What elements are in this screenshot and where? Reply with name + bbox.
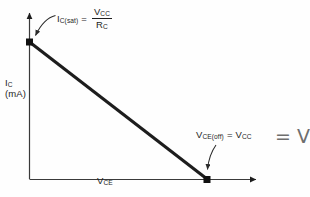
vce-off-symbol-subscript: CE(off) <box>202 133 223 140</box>
dc-load-line <box>30 42 208 179</box>
y-axis-unit: (mA) <box>5 89 26 99</box>
rc-symbol-subscript: C <box>103 24 108 31</box>
ic-sat-leader-arrow <box>36 16 56 36</box>
vce-off-equals-sign: = <box>224 130 236 140</box>
ic-sat-equals-sign: = <box>78 14 90 24</box>
fraction-numerator: VCC <box>92 7 112 18</box>
y-axis-label: IC (mA) <box>5 78 26 99</box>
ic-sat-symbol-subscript: C(sat) <box>60 17 79 24</box>
handwritten-vcc-main: = V <box>275 125 310 147</box>
vce-off-value-group: VCC <box>235 130 251 141</box>
handwritten-vcc-annotation: = Vc <box>275 127 310 149</box>
x-axis-symbol-subscript: CE <box>103 179 112 186</box>
ic-sat-annotation: IC(sat) = VCC RC <box>57 7 112 32</box>
vce-off-value-subscript: CC <box>242 133 252 140</box>
vce-off-annotation: VCE(off) = VCC <box>196 130 252 141</box>
vce-off-leader-arrow <box>208 145 217 170</box>
vce-off-symbol-group: VCE(off) <box>196 130 224 141</box>
fraction-denominator: RC <box>94 20 110 31</box>
figure-drawing-layer <box>0 0 310 197</box>
rc-symbol: R <box>96 19 103 30</box>
vce-off-point-marker <box>204 176 211 183</box>
vcc-symbol-subscript: CC <box>100 10 110 17</box>
x-axis-label: VCE <box>97 176 113 187</box>
vcc-over-rc-fraction: VCC RC <box>92 7 112 32</box>
ic-sat-symbol-group: IC(sat) <box>57 14 78 25</box>
ic-sat-point-marker <box>26 39 33 46</box>
dc-load-line-figure: IC (mA) VCE IC(sat) = VCC RC VCE(off) = … <box>0 0 310 197</box>
